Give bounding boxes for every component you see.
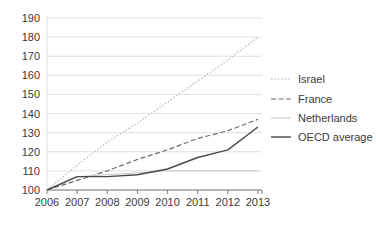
x-axis-tick-label: 2010	[155, 196, 179, 208]
axes	[47, 16, 262, 194]
x-axis-tick-label: 2013	[246, 196, 270, 208]
legend: IsraelFranceNetherlandsOECD average	[271, 73, 373, 143]
y-axis-tick-labels: 100110120130140150160170180190	[22, 12, 40, 196]
chart-canvas: 100110120130140150160170180190 200620072…	[0, 0, 376, 233]
x-axis-tick-label: 2011	[186, 196, 210, 208]
legend-label: France	[298, 93, 332, 105]
y-axis-tick-label: 150	[22, 88, 40, 100]
y-axis-tick-label: 140	[22, 108, 40, 120]
line-chart: 100110120130140150160170180190 200620072…	[0, 0, 376, 233]
y-axis-tick-label: 180	[22, 31, 40, 43]
x-axis-tick-labels: 20062007200820092010201120122013	[35, 196, 270, 208]
x-axis-tick-label: 2012	[216, 196, 240, 208]
y-axis-tick-label: 130	[22, 127, 40, 139]
plot-area: 100110120130140150160170180190 200620072…	[0, 0, 376, 233]
y-axis-tick-label: 160	[22, 69, 40, 81]
legend-label: Netherlands	[298, 112, 358, 124]
y-axis-tick-label: 100	[22, 184, 40, 196]
y-axis-tick-label: 170	[22, 50, 40, 62]
legend-label: OECD average	[298, 131, 373, 143]
x-axis-tick-label: 2006	[35, 196, 59, 208]
series-line	[47, 119, 258, 190]
y-axis-tick-label: 110	[22, 165, 40, 177]
y-axis-tick-label: 120	[22, 146, 40, 158]
legend-label: Israel	[298, 73, 325, 85]
y-axis-tick-label: 190	[22, 12, 40, 24]
x-axis-tick-label: 2009	[125, 196, 149, 208]
x-axis-tick-label: 2007	[65, 196, 89, 208]
x-axis-tick-label: 2008	[95, 196, 119, 208]
